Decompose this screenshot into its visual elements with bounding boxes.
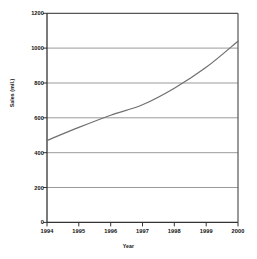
- y-tick-label: 0: [18, 219, 44, 225]
- data-series-sales: [47, 41, 238, 140]
- x-tick-label: 1994: [32, 228, 62, 234]
- y-tick-400: 400: [14, 150, 44, 156]
- y-tick-label: 1200: [18, 10, 44, 16]
- y-tick-label: 1000: [18, 45, 44, 51]
- y-axis-title: Sales (mil.): [9, 58, 15, 128]
- y-tick-0: 0: [14, 219, 44, 225]
- gridlines: [47, 48, 238, 187]
- x-tick-1995: 1995: [64, 228, 94, 236]
- x-tick-1997: 1997: [128, 228, 158, 236]
- x-tick-label: 1996: [96, 228, 126, 234]
- y-tick-800: 800: [14, 80, 44, 86]
- y-tick-200: 200: [14, 185, 44, 191]
- x-tick-1994: 1994: [32, 228, 62, 236]
- x-tick-1996: 1996: [96, 228, 126, 236]
- x-tick-1999: 1999: [191, 228, 221, 236]
- x-axis-title: Year: [0, 243, 257, 249]
- x-tick-label: 1995: [64, 228, 94, 234]
- y-tick-label: 400: [18, 150, 44, 156]
- x-tick-1998: 1998: [159, 228, 189, 236]
- x-tick-label: 1999: [191, 228, 221, 234]
- line-chart: 1200 1000 800 600 400 200 0 1994 1995 19…: [0, 0, 257, 259]
- x-tick-2000: 2000: [223, 228, 253, 236]
- y-tick-label: 800: [18, 80, 44, 86]
- x-tick-label: 1997: [128, 228, 158, 234]
- y-tick-600: 600: [14, 115, 44, 121]
- y-tick-1200: 1200: [14, 10, 44, 16]
- y-tick-1000: 1000: [14, 45, 44, 51]
- x-tick-label: 2000: [223, 228, 253, 234]
- x-tick-label: 1998: [159, 228, 189, 234]
- y-tick-label: 600: [18, 115, 44, 121]
- y-tick-label: 200: [18, 185, 44, 191]
